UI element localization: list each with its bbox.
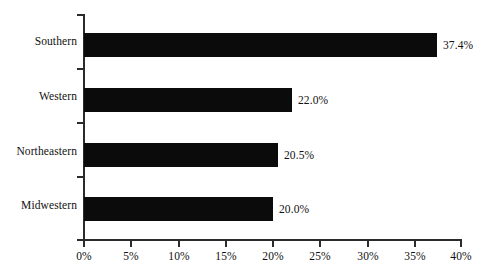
x-axis-label-25: 25%	[309, 250, 330, 262]
x-axis-label-10: 10%	[168, 250, 189, 262]
bar-southern	[84, 33, 437, 57]
x-axis-tick	[272, 241, 274, 247]
bar-western	[84, 88, 292, 112]
x-axis-label-40: 40%	[450, 250, 471, 262]
bar-midwestern	[84, 197, 273, 221]
category-label-northeastern: Northeastern	[16, 145, 77, 157]
category-label-western: Western	[39, 90, 77, 102]
x-axis-label-5: 5%	[123, 250, 139, 262]
x-axis-label-15: 15%	[215, 250, 236, 262]
bar-northeastern	[84, 143, 278, 167]
x-axis-tick	[319, 241, 321, 247]
category-label-midwestern: Midwestern	[21, 199, 77, 211]
bar-value-northeastern: 20.5%	[284, 149, 314, 161]
y-axis-tick	[77, 122, 84, 124]
x-axis-tick	[130, 241, 132, 247]
x-axis-tick	[367, 241, 369, 247]
bar-chart: Southern Western Northeastern Midwestern…	[0, 0, 486, 280]
x-axis-label-0: 0%	[76, 250, 92, 262]
x-axis-tick	[225, 241, 227, 247]
x-axis-tick	[414, 241, 416, 247]
x-axis-tick	[460, 241, 462, 247]
x-axis-label-30: 30%	[357, 250, 378, 262]
category-label-southern: Southern	[35, 35, 77, 47]
bar-value-midwestern: 20.0%	[279, 203, 309, 215]
y-axis-tick	[77, 14, 84, 16]
y-axis-tick	[77, 176, 84, 178]
y-axis-tick	[77, 68, 84, 70]
x-axis-tick	[83, 241, 85, 247]
bar-value-southern: 37.4%	[443, 39, 473, 51]
x-axis-label-20: 20%	[262, 250, 283, 262]
x-axis-tick	[178, 241, 180, 247]
x-axis-label-35: 35%	[404, 250, 425, 262]
bar-value-western: 22.0%	[298, 94, 328, 106]
